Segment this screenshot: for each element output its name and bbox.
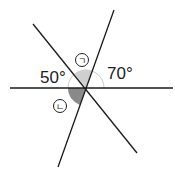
angle-50-label: 50° [40,68,66,87]
giyeok-label: ㄱ [78,56,86,66]
angle-diagram: 50° 70° ㄱ ㄴ [0,0,175,171]
angle-70-label: 70° [107,64,133,83]
nieun-label: ㄴ [56,102,64,112]
